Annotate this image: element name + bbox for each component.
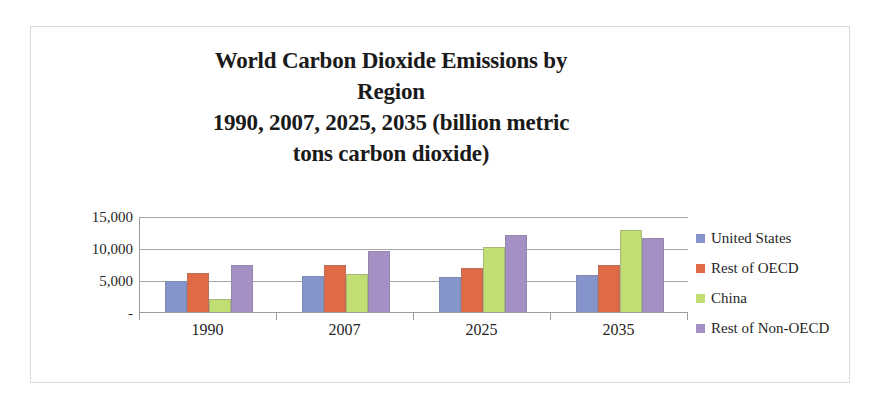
bar[interactable] <box>505 235 527 313</box>
bar[interactable] <box>231 265 253 313</box>
bar-group-2035 <box>551 217 688 313</box>
chart-legend: United StatesRest of OECDChinaRest of No… <box>696 223 877 343</box>
bar[interactable] <box>324 265 346 313</box>
y-axis-tick-label: 15,000 <box>49 209 133 226</box>
bar[interactable] <box>439 277 461 313</box>
bar[interactable] <box>642 238 664 313</box>
chart-title-line-2: Region <box>81 76 701 107</box>
bar[interactable] <box>302 276 324 313</box>
bars-layer <box>140 217 688 313</box>
category-tick-marks <box>139 313 687 320</box>
legend-swatch-icon <box>696 324 705 333</box>
bar[interactable] <box>598 265 620 313</box>
plot-area <box>139 217 688 313</box>
chart-title-line-4: tons carbon dioxide) <box>81 138 701 169</box>
y-axis: -5,00010,00015,000 <box>49 217 133 317</box>
x-axis-tick <box>687 313 688 320</box>
legend-item[interactable]: United States <box>696 223 877 253</box>
x-axis-tick <box>413 313 414 320</box>
x-axis-tick-label: 2025 <box>413 321 550 339</box>
bar[interactable] <box>187 273 209 313</box>
legend-item[interactable]: Rest of OECD <box>696 253 877 283</box>
y-axis-tick-label: 10,000 <box>49 241 133 258</box>
bar[interactable] <box>620 230 642 313</box>
chart-title: World Carbon Dioxide Emissions by Region… <box>81 45 701 169</box>
bar[interactable] <box>483 247 505 313</box>
legend-label: United States <box>711 230 791 247</box>
x-axis-tick <box>550 313 551 320</box>
legend-label: Rest of Non-OECD <box>711 320 829 337</box>
legend-label: Rest of OECD <box>711 260 799 277</box>
bar[interactable] <box>346 274 368 313</box>
bar[interactable] <box>461 268 483 313</box>
x-axis-tick <box>276 313 277 320</box>
x-axis-tick-label: 2035 <box>550 321 687 339</box>
chart-title-line-1: World Carbon Dioxide Emissions by <box>81 45 701 76</box>
legend-label: China <box>711 290 747 307</box>
chart-title-line-3: 1990, 2007, 2025, 2035 (billion metric <box>81 107 701 138</box>
bar[interactable] <box>209 299 231 313</box>
chart-container: World Carbon Dioxide Emissions by Region… <box>30 26 850 383</box>
x-axis: 1990200720252035 <box>139 321 687 339</box>
y-axis-tick-label: - <box>49 305 133 322</box>
bar[interactable] <box>576 275 598 313</box>
y-axis-tick-label: 5,000 <box>49 273 133 290</box>
legend-swatch-icon <box>696 264 705 273</box>
legend-swatch-icon <box>696 234 705 243</box>
x-axis-tick <box>139 313 140 320</box>
legend-item[interactable]: China <box>696 283 877 313</box>
legend-swatch-icon <box>696 294 705 303</box>
legend-item[interactable]: Rest of Non-OECD <box>696 313 877 343</box>
bar-group-2025 <box>414 217 551 313</box>
x-axis-tick-label: 2007 <box>276 321 413 339</box>
bar-group-1990 <box>140 217 277 313</box>
bar[interactable] <box>368 251 390 313</box>
bar-group-2007 <box>277 217 414 313</box>
x-axis-tick-label: 1990 <box>139 321 276 339</box>
bar[interactable] <box>165 281 187 313</box>
